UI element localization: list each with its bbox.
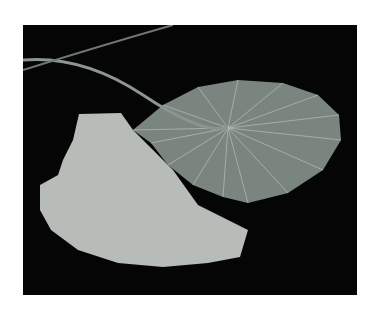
stem-2 <box>23 25 173 70</box>
photo-leaves <box>23 25 357 295</box>
leaf-illustration <box>23 25 357 295</box>
